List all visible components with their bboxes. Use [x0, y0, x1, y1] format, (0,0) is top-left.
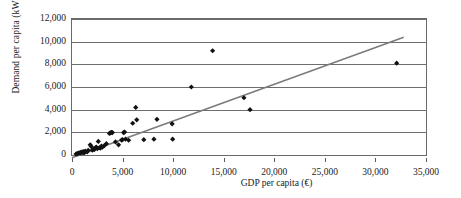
x-axis-label-text: GDP per capita (€) [241, 178, 313, 188]
y-tick-label: 6,000 [22, 82, 66, 92]
scatter-chart: Demand per capita (kWh) 02,0004,0006,000… [0, 0, 461, 198]
data-point [170, 137, 175, 142]
x-tick-mark [224, 158, 225, 162]
x-tick-label: 10,000 [160, 167, 186, 177]
y-tick-label: 12,000 [22, 14, 66, 24]
x-tick-mark [274, 158, 275, 162]
y-tick-label: 8,000 [22, 59, 66, 69]
data-point [133, 105, 138, 110]
x-tick-mark [375, 158, 376, 162]
data-point [154, 117, 159, 122]
data-point [247, 107, 252, 112]
y-tick-label: 4,000 [22, 105, 66, 115]
y-tick-label: 10,000 [22, 37, 66, 47]
x-axis-ticks: 05,00010,00015,00020,00025,00030,00035,0… [0, 158, 461, 180]
data-point [96, 139, 101, 144]
data-point [151, 137, 156, 142]
x-tick-mark [72, 158, 73, 162]
x-tick-label: 15,000 [211, 167, 237, 177]
x-tick-label: 0 [70, 167, 75, 177]
data-point [134, 117, 139, 122]
x-axis-label: GDP per capita (€) [0, 178, 461, 188]
plot-area [71, 18, 427, 156]
x-tick-label: 25,000 [312, 167, 338, 177]
x-tick-mark [426, 158, 427, 162]
data-point [141, 137, 146, 142]
data-layer [72, 19, 426, 155]
x-tick-label: 5,000 [112, 167, 133, 177]
x-tick-mark [173, 158, 174, 162]
x-tick-label: 35,000 [413, 167, 439, 177]
x-tick-mark [325, 158, 326, 162]
data-point [130, 121, 135, 126]
x-tick-label: 30,000 [362, 167, 388, 177]
data-point [210, 48, 215, 53]
y-tick-label: 2,000 [22, 127, 66, 137]
data-point [394, 61, 399, 66]
data-point [189, 84, 194, 89]
x-tick-mark [123, 158, 124, 162]
x-tick-label: 20,000 [261, 167, 287, 177]
